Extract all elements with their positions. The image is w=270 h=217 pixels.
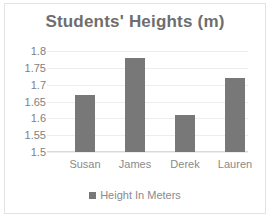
x-axis-category-label: Susan [60,158,110,170]
bar [225,78,245,152]
y-axis-tick-label: 1.65 [4,96,46,108]
chart-title: Students' Heights (m) [0,12,270,32]
gridline [47,152,248,153]
x-axis-category-label: Derek [160,158,210,170]
y-axis-tick-label: 1.6 [4,112,46,124]
chart-container: Students' Heights (m) 1.81.751.71.651.61… [0,0,270,217]
bar-slot [210,51,260,152]
bar [125,58,145,152]
y-axis-tick-label: 1.8 [4,45,46,57]
bar-slot [160,51,210,152]
x-axis-category-label: Lauren [210,158,260,170]
x-axis-category-label: James [110,158,160,170]
chart-legend: Height In Meters [0,189,270,201]
bar-slot [60,51,110,152]
y-axis-tick-label: 1.75 [4,62,46,74]
y-axis-tick-label: 1.55 [4,129,46,141]
y-axis-tick-label: 1.5 [4,146,46,158]
bar [175,115,195,152]
bar-slot [110,51,160,152]
legend-swatch-icon [89,192,96,199]
y-axis-tick-label: 1.7 [4,79,46,91]
plot-area [47,51,248,152]
bar-series [47,51,248,152]
legend-label: Height In Meters [100,189,181,201]
bar [75,95,95,152]
